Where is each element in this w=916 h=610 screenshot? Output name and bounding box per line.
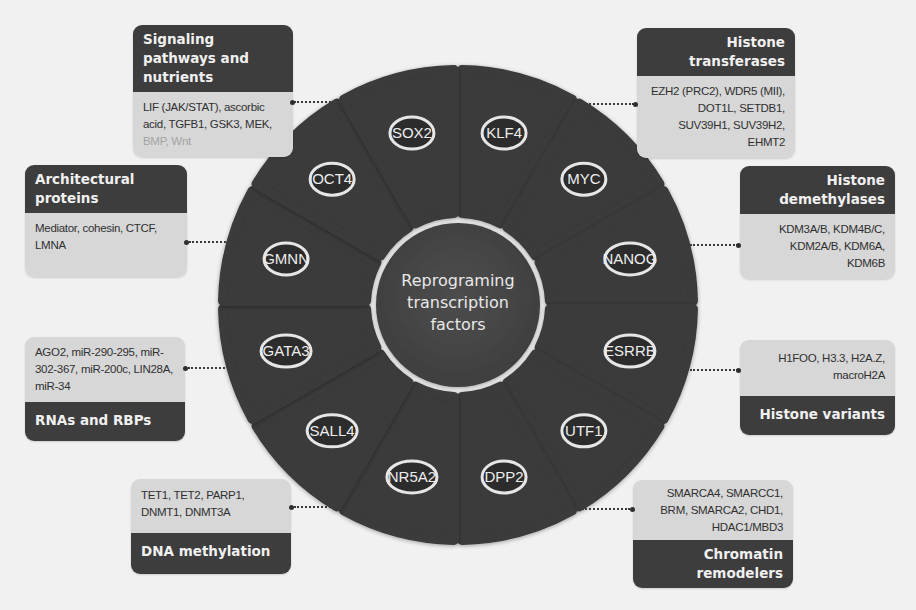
connector-dot [633,102,638,107]
connector-signaling [294,101,342,103]
box-dna-methylation: TET1, TET2, PARP1, DNMT1, DNMT3A DNA met… [131,479,291,574]
center-label-line-2: transcription [407,293,509,312]
segment-label: ESRRB [604,342,656,359]
box-items: AGO2, miR-290-295, miR-302-367, miR-200c… [25,337,185,402]
box-items: Mediator, cohesin, CTCF, LMNA [25,213,187,277]
connector-histone-demethylases [690,244,738,246]
connector-dot [736,243,741,248]
connector-histone-transferases [586,103,634,105]
segment-label: NR5A2 [388,468,436,485]
box-architectural-proteins: Architectural proteins Mediator, cohesin… [25,165,187,277]
box-items: TET1, TET2, PARP1, DNMT1, DNMT3A [131,479,291,533]
box-title: Signaling pathways and nutrients [133,25,293,92]
box-title: Histone transferases [637,28,795,76]
box-items: EZH2 (PRC2), WDR5 (MII), DOT1L, SETDB1, … [637,76,795,158]
segment-label: GMNN [263,250,309,267]
box-signaling-pathways: Signaling pathways and nutrients LIF (JA… [133,25,293,157]
connector-rnas [188,367,236,369]
box-title: Histone variants [740,396,895,435]
box-title: DNA methylation [131,533,291,574]
box-items: H1FOO, H3.3, H2A.Z, macroH2A [740,340,895,396]
segment-label: NANOG [602,250,657,267]
box-histone-variants: H1FOO, H3.3, H2A.Z, macroH2A Histone var… [740,340,895,435]
segment-label: GATA3 [263,342,310,359]
segment-label: UTF1 [565,422,603,439]
segment-label: OCT4 [312,170,352,187]
box-items: KDM3A/B, KDM4B/C, KDM2A/B, KDM6A, KDM6B [740,214,895,279]
box-items: LIF (JAK/STAT), ascorbic acid, TGFB1, GS… [133,92,293,157]
box-items-faded: BMP, Wnt [143,135,191,147]
box-items-main: LIF (JAK/STAT), ascorbic acid, TGFB1, GS… [143,101,272,130]
box-chromatin-remodelers: SMARCA4, SMARCC1, BRM, SMARCA2, CHD1, HD… [633,480,793,588]
segment-label: SOX2 [392,124,432,141]
connector-histone-variants [690,369,738,371]
box-title: Chromatin remodelers [633,540,793,588]
box-histone-transferases: Histone transferases EZH2 (PRC2), WDR5 (… [637,28,795,158]
segment-label: KLF4 [486,124,522,141]
center-label-line-3: factors [430,315,485,334]
connector-dna-methylation [294,506,342,508]
connector-architectural [189,241,237,243]
box-items: SMARCA4, SMARCC1, BRM, SMARCA2, CHD1, HD… [633,480,793,540]
segment-label: SALL4 [310,422,355,439]
box-rnas-rbps: AGO2, miR-290-295, miR-302-367, miR-200c… [25,337,185,441]
box-title: Histone demethylases [740,166,895,214]
box-title: Architectural proteins [25,165,187,213]
segment-label: DPP2 [484,468,523,485]
connector-dot [736,368,741,373]
segment-label: MYC [567,170,601,187]
connector-chromatin [582,508,630,510]
box-title: RNAs and RBPs [25,402,185,441]
connector-dot [630,507,635,512]
box-histone-demethylases: Histone demethylases KDM3A/B, KDM4B/C, K… [740,166,895,279]
center-label-line-1: Reprograming [401,271,514,290]
